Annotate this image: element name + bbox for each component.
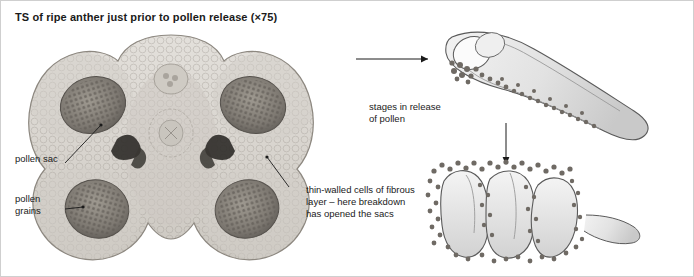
fibrous-layer-leader-dot [265,155,268,158]
label-stages-in-release: stages in release of pollen [369,101,479,125]
figure-panel: TS of ripe anther just prior to pollen r… [0,0,694,277]
pollen-release-stages [356,19,686,271]
anther-body [21,27,331,269]
figure-title: TS of ripe anther just prior to pollen r… [15,11,277,23]
pollen-grains-leader-dot [81,205,84,208]
label-pollen-grains: pollen grains [15,193,41,217]
pollen-release-svg [356,19,686,271]
label-pollen-sac: pollen sac [15,153,58,165]
anther-micrograph-svg [21,27,331,269]
arrow-to-stage-one [356,56,428,63]
stage-two-anther [426,159,640,263]
arrow-to-stage-two [503,123,510,165]
pollen-sac-leader-dot [99,123,102,126]
anther-micrograph [21,27,331,269]
label-fibrous-layer: thin-walled cells of fibrous layer – her… [306,184,441,220]
